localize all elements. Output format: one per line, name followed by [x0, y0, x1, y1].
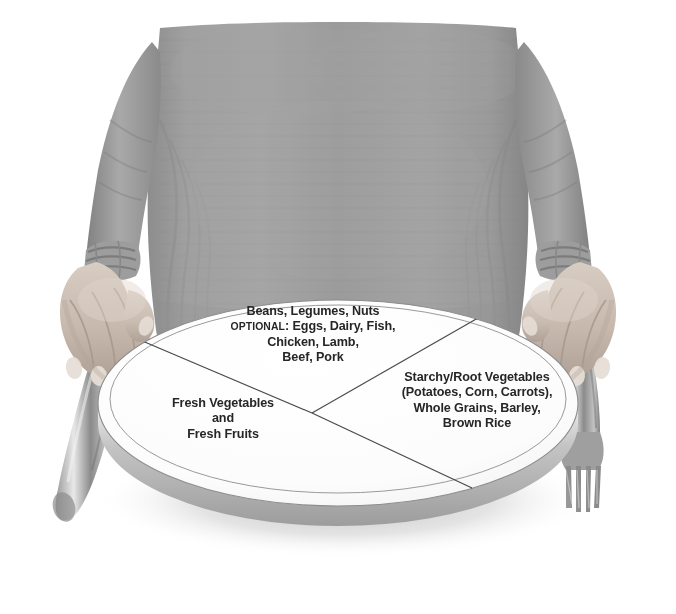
- produce-line-1: Fresh Vegetables: [118, 396, 328, 411]
- produce-line-2: and: [118, 411, 328, 426]
- optional-suffix: : Eggs, Dairy, Fish,: [285, 319, 395, 333]
- protein-line-1: Beans, Legumes, Nuts: [188, 304, 438, 319]
- protein-section-label: Beans, Legumes, Nuts OPTIONAL: Eggs, Dai…: [188, 304, 438, 366]
- protein-line-4: Beef, Pork: [188, 350, 438, 365]
- optional-prefix: OPTIONAL: [231, 321, 285, 332]
- vegetables-fruits-section-label: Fresh Vegetables and Fresh Fruits: [118, 396, 328, 442]
- starch-line-1: Starchy/Root Vegetables: [372, 370, 582, 385]
- protein-line-3: Chicken, Lamb,: [188, 335, 438, 350]
- starch-line-2: (Potatoes, Corn, Carrots),: [372, 385, 582, 400]
- starches-grains-section-label: Starchy/Root Vegetables (Potatoes, Corn,…: [372, 370, 582, 432]
- starch-line-3: Whole Grains, Barley,: [372, 401, 582, 416]
- healthy-plate-image: Beans, Legumes, Nuts OPTIONAL: Eggs, Dai…: [0, 0, 676, 614]
- protein-line-2: OPTIONAL: Eggs, Dairy, Fish,: [188, 319, 438, 334]
- produce-line-3: Fresh Fruits: [118, 427, 328, 442]
- starch-line-4: Brown Rice: [372, 416, 582, 431]
